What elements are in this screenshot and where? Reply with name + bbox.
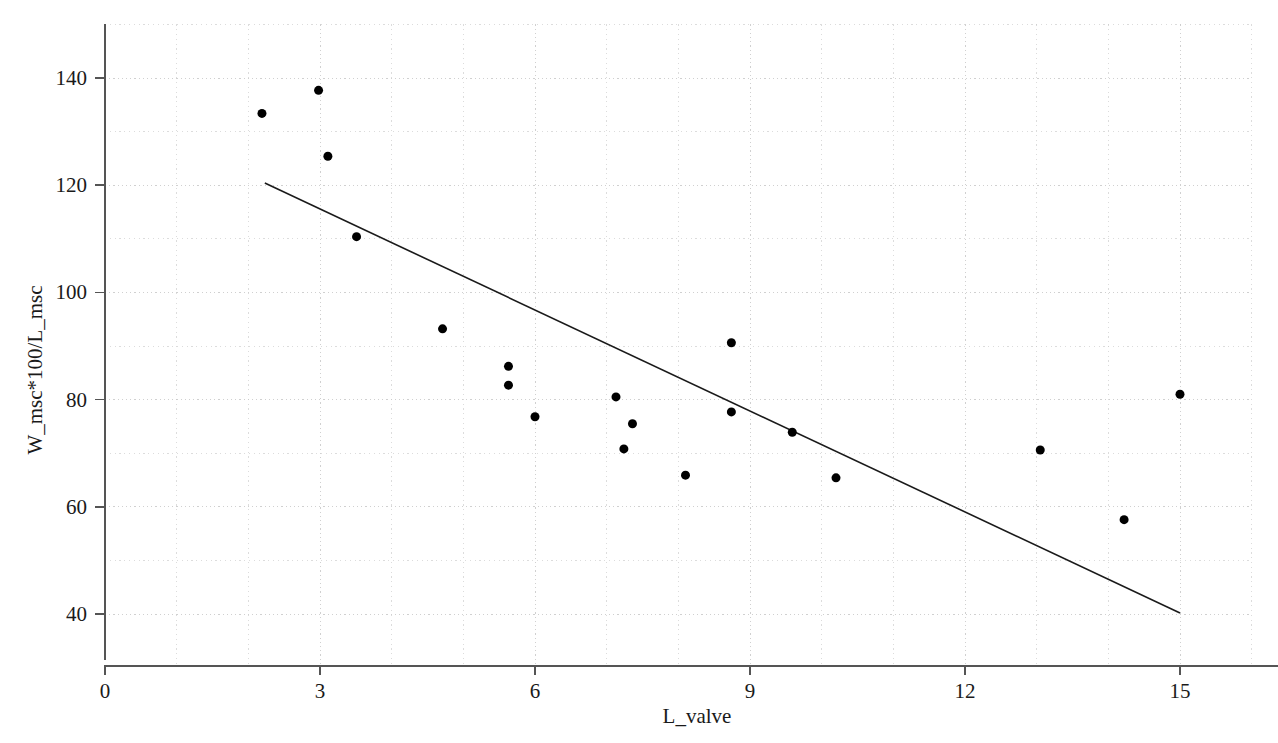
data-point <box>681 471 690 480</box>
data-point <box>832 473 841 482</box>
x-tick-label: 3 <box>315 679 326 703</box>
y-tick-label: 60 <box>66 495 87 519</box>
data-point <box>352 232 361 241</box>
y-axis-title: W_msc*100/L_msc <box>23 285 47 454</box>
x-tick-label: 0 <box>100 679 111 703</box>
y-axis-tick-labels: 406080100120140 <box>56 66 88 626</box>
data-point <box>1120 515 1129 524</box>
data-points <box>257 86 1184 524</box>
x-axis-tick-labels: 03691215 <box>100 679 1191 703</box>
plot-canvas: 03691215 406080100120140 L_valve W_msc*1… <box>0 0 1278 743</box>
data-point <box>1036 445 1045 454</box>
data-point <box>504 381 513 390</box>
axis-lines <box>104 24 1278 666</box>
x-tick-label: 9 <box>745 679 756 703</box>
data-point <box>257 109 266 118</box>
x-tick-label: 12 <box>955 679 976 703</box>
data-point <box>531 412 540 421</box>
data-point <box>504 362 513 371</box>
axis-ticks <box>95 78 1180 675</box>
data-point <box>727 338 736 347</box>
data-point <box>323 152 332 161</box>
x-tick-label: 6 <box>530 679 541 703</box>
regression-line <box>265 183 1180 613</box>
y-tick-label: 140 <box>56 66 88 90</box>
data-point <box>727 407 736 416</box>
scatter-plot-figure: 03691215 406080100120140 L_valve W_msc*1… <box>0 0 1278 743</box>
data-point <box>619 444 628 453</box>
y-tick-label: 100 <box>56 280 88 304</box>
data-point <box>788 428 797 437</box>
x-axis-title: L_valve <box>663 704 732 728</box>
x-tick-label: 15 <box>1170 679 1191 703</box>
data-point <box>628 419 637 428</box>
grid-minor-horizontal <box>105 24 1252 614</box>
grid-minor-vertical <box>177 24 1252 666</box>
y-tick-label: 80 <box>66 388 87 412</box>
data-point <box>1176 390 1185 399</box>
data-point <box>438 324 447 333</box>
data-point <box>611 392 620 401</box>
regression-line-segment <box>265 183 1180 613</box>
y-tick-label: 40 <box>66 602 87 626</box>
data-point <box>314 86 323 95</box>
y-tick-label: 120 <box>56 173 88 197</box>
